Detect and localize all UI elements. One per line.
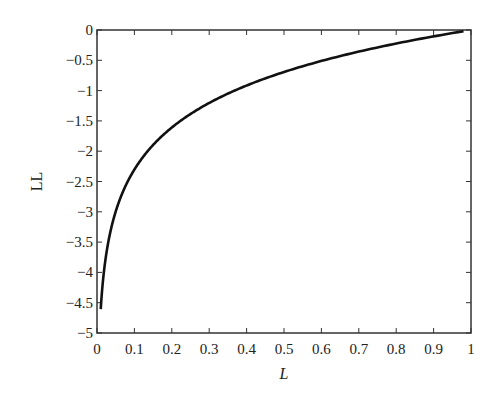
y-tick-label: −2.5 [66,174,93,190]
y-tick-label: −3.5 [66,234,93,250]
x-tick-label: 0.4 [237,341,256,357]
y-tick-label: −4.5 [66,295,93,311]
y-axis-label: LL [28,172,45,192]
data-series-line [101,31,464,309]
y-tick-label: 0 [86,22,94,38]
y-tick-label: −1 [77,83,93,99]
y-tick-label: −2 [77,143,93,159]
x-axis-label: L [279,365,289,382]
x-tick-label: 0.9 [424,341,443,357]
x-tick-label: 0.5 [275,341,294,357]
y-tick-label: −3 [77,204,93,220]
y-tick-label: −0.5 [66,52,93,68]
x-tick-label: 0.6 [312,341,331,357]
x-tick-label: 0.7 [349,341,368,357]
x-tick-label: 0.2 [162,341,181,357]
y-tick-label: −4 [77,264,93,280]
x-tick-label: 0.1 [125,341,144,357]
x-tick-label: 0 [93,341,101,357]
y-tick-label: −1.5 [66,113,93,129]
x-tick-label: 0.3 [200,341,219,357]
plot-frame [97,30,471,333]
y-tick-label: −5 [77,325,93,341]
x-tick-label: 1 [467,341,475,357]
line-chart: 00.10.20.30.40.50.60.70.80.910−0.5−1−1.5… [0,0,500,406]
x-tick-label: 0.8 [387,341,406,357]
